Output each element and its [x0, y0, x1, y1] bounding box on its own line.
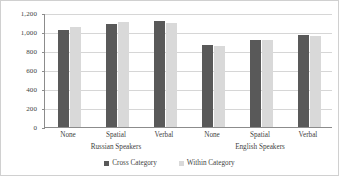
- x-axis-tick-label: Verbal: [285, 131, 331, 139]
- bar: [298, 35, 309, 127]
- y-axis-tick-label: 1,000: [3, 30, 37, 37]
- bar: [250, 40, 261, 127]
- x-axis-tick-label: Verbal: [141, 131, 187, 139]
- bar: [166, 23, 177, 127]
- legend-item[interactable]: Cross Category: [104, 159, 157, 167]
- y-axis-tick-label: 1,200: [3, 11, 37, 18]
- bar: [118, 22, 129, 127]
- legend-label: Cross Category: [112, 159, 157, 167]
- bar-chart: 02004006008001,0001,200 NoneSpatialVerba…: [0, 0, 339, 176]
- y-axis-tick-label: 200: [3, 106, 37, 113]
- bar: [58, 30, 69, 127]
- plot-area: [44, 14, 332, 128]
- y-axis-tick-label: 600: [3, 68, 37, 75]
- legend-item[interactable]: Within Category: [179, 159, 235, 167]
- x-axis-tick-label: None: [45, 131, 91, 139]
- bar: [262, 40, 273, 127]
- legend-swatch-icon: [179, 161, 184, 166]
- legend-swatch-icon: [104, 161, 109, 166]
- x-axis-group-label: Russian Speakers: [56, 143, 176, 151]
- y-axis-tick-label: 0: [3, 125, 37, 132]
- bars-layer: [45, 14, 332, 127]
- bar: [154, 21, 165, 127]
- bar: [310, 36, 321, 127]
- x-axis-tick-label: None: [189, 131, 235, 139]
- x-axis-tick-label: Spatial: [237, 131, 283, 139]
- bar: [106, 24, 117, 127]
- bar: [202, 45, 213, 127]
- x-axis-group-label: English Speakers: [200, 143, 320, 151]
- y-axis-tick-label: 400: [3, 87, 37, 94]
- y-axis-tick-mark: [42, 128, 45, 129]
- x-axis-tick-label: Spatial: [93, 131, 139, 139]
- bar: [214, 46, 225, 127]
- y-axis-tick-label: 800: [3, 49, 37, 56]
- legend-label: Within Category: [187, 159, 235, 167]
- bar: [70, 27, 81, 127]
- chart-legend: Cross CategoryWithin Category: [1, 159, 338, 167]
